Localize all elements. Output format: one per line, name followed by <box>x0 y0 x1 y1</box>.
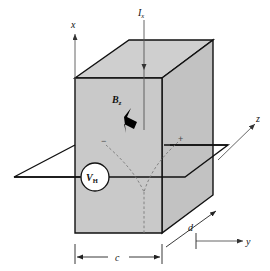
magnetic-field-subscript: z <box>118 99 122 106</box>
z-axis-label: z <box>255 113 260 124</box>
x-axis-label: x <box>70 19 76 30</box>
z-axis-line <box>218 124 255 160</box>
positive-charge-sign: + <box>178 134 183 144</box>
current-subscript: x <box>140 12 144 19</box>
hall-effect-diagram: x Ix z y <box>0 0 270 271</box>
voltmeter: VH <box>81 163 109 191</box>
current-label: Ix <box>137 7 144 19</box>
y-axis-label: y <box>245 236 251 247</box>
voltmeter-subscript: H <box>93 177 98 184</box>
x-axis: x <box>70 19 76 150</box>
z-axis: z <box>218 113 260 160</box>
y-axis: y <box>196 236 251 247</box>
hall-effect-figure: x Ix z y <box>0 0 270 271</box>
plane-left-outline <box>14 145 80 177</box>
dimension-c-label: c <box>115 252 120 263</box>
dimension-c: c <box>75 244 162 264</box>
negative-charge-sign: − <box>101 136 106 146</box>
